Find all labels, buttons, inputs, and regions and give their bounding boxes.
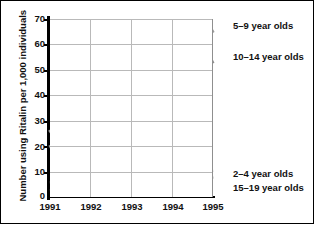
- y-tick-label-30: 30: [5, 115, 45, 126]
- gridline-x-1994: [172, 19, 173, 197]
- x-tick-label-1995: 1995: [193, 201, 233, 212]
- y-tick-label-0: 0: [5, 190, 45, 201]
- gridline-x-1993: [131, 19, 132, 197]
- series-label-2-4: 2–4 year olds: [233, 168, 293, 179]
- y-tick-label-60: 60: [5, 38, 45, 49]
- plot-right-border: [212, 19, 213, 197]
- x-tick-label-1993: 1993: [112, 201, 152, 212]
- series-label-5-9: 5–9 year olds: [233, 20, 293, 31]
- x-tick-label-1992: 1992: [71, 201, 111, 212]
- chart-frame: Number using Ritalin per 1,000 individua…: [0, 0, 314, 224]
- x-tick-label-1994: 1994: [153, 201, 193, 212]
- y-tick-label-20: 20: [5, 141, 45, 152]
- y-tick-label-70: 70: [5, 13, 45, 24]
- plot-area: [50, 19, 213, 197]
- gridline-x-1992: [90, 19, 91, 197]
- series-label-15-19: 15–19 year olds: [233, 182, 304, 193]
- series-label-10-14: 10–14 year olds: [233, 51, 304, 62]
- y-tick-label-10: 10: [5, 166, 45, 177]
- x-tick-label-1991: 1991: [30, 201, 70, 212]
- y-tick-label-40: 40: [5, 89, 45, 100]
- y-tick-label-50: 50: [5, 64, 45, 75]
